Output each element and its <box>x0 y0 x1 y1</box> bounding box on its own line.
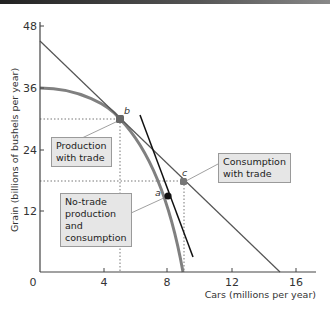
label-a: a <box>155 187 161 198</box>
annotation-consumption-with-trade: Consumption with trade <box>218 153 291 183</box>
annotation-line: Consumption <box>223 156 286 168</box>
no-trade-price-line <box>140 115 193 257</box>
x-tick-16: 16 <box>289 276 303 289</box>
y-tick-12: 12 <box>23 205 37 218</box>
origin-label: 0 <box>30 276 37 289</box>
point-b <box>116 115 124 123</box>
annotation-production-with-trade: Production with trade <box>51 137 112 167</box>
label-b: b <box>124 105 130 116</box>
annotation-line: consumption <box>65 232 127 244</box>
annotation-line: with trade <box>56 152 107 164</box>
annotation-line: and <box>65 220 127 232</box>
annotation-no-trade: No-trade production and consumption <box>60 193 132 247</box>
y-tick-48: 48 <box>23 20 37 33</box>
point-a <box>164 192 171 199</box>
annotation-line: Production <box>56 140 107 152</box>
x-tick-12: 12 <box>225 276 239 289</box>
x-tick-4: 4 <box>101 276 108 289</box>
x-tick-8: 8 <box>164 276 171 289</box>
annotation-line: production <box>65 208 127 220</box>
label-c: c <box>182 167 188 178</box>
y-axis-title: Grain (billions of bushels per year) <box>9 68 20 232</box>
annotation-line: No-trade <box>65 196 127 208</box>
point-c <box>180 178 187 185</box>
y-tick-36: 36 <box>23 82 37 95</box>
annotation-line: with trade <box>223 168 286 180</box>
x-axis-title: Cars (millions per year) <box>205 289 316 300</box>
y-tick-24: 24 <box>23 144 37 157</box>
